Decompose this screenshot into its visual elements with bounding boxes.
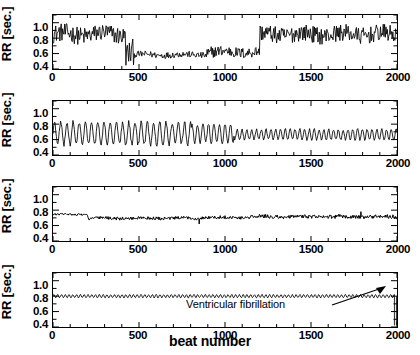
panel-b-series [53,101,397,155]
panel-a-series [53,15,397,69]
panel-b-sleep-apnea: RR [sec.] 1.0 0.8 0.6 0.4 (b) Sleep apne… [0,86,420,171]
y-tick-1: 1.0 [20,193,48,205]
panel-c-series [53,187,397,241]
x-tick-500: 500 [118,71,158,83]
x-tick-2000: 2000 [378,157,418,169]
x-tick-500: 500 [118,243,158,255]
panel-d-sudden-cardiac-death: RR [sec.] 1.0 0.8 0.6 0.4 (d) Sudden car… [0,258,420,343]
y-tick-1: 1.0 [20,21,48,33]
x-tick-500: 500 [118,157,158,169]
x-tick-2000: 2000 [378,243,418,255]
y-tick-3: 0.6 [20,133,48,145]
panel-c-plot-area [52,186,398,242]
x-tick-1000: 1000 [205,243,245,255]
x-tick-1500: 1500 [291,157,331,169]
x-tick-1000: 1000 [205,71,245,83]
x-tick-1500: 1500 [291,71,331,83]
y-tick-1: 1.0 [20,279,48,291]
y-tick-3: 0.6 [20,47,48,59]
x-axis-label: beat number [0,333,420,349]
x-tick-0: 0 [32,243,72,255]
panel-b-plot-area [52,100,398,156]
panel-c-congestive-heart-failure: RR [sec.] 1.0 0.8 0.6 0.4 (c) Congestive… [0,172,420,257]
x-tick-2000: 2000 [378,71,418,83]
annotation-arrow-icon [330,284,390,308]
rr-interval-figure: RR [sec.] 1.0 0.8 0.6 0.4 (a) Normal 0 5… [0,0,420,355]
y-tick-2: 0.8 [20,120,48,132]
y-tick-2: 0.8 [20,206,48,218]
y-tick-2: 0.8 [20,292,48,304]
y-tick-2: 0.8 [20,34,48,46]
x-tick-0: 0 [32,71,72,83]
x-tick-1500: 1500 [291,243,331,255]
y-tick-3: 0.6 [20,219,48,231]
x-tick-0: 0 [32,157,72,169]
y-tick-1: 1.0 [20,107,48,119]
panel-a-normal: RR [sec.] 1.0 0.8 0.6 0.4 (a) Normal 0 5… [0,0,420,85]
panel-a-plot-area [52,14,398,70]
ventricular-fibrillation-annotation: Ventricular fibrillation [186,298,285,310]
x-tick-1000: 1000 [205,157,245,169]
y-tick-3: 0.6 [20,305,48,317]
